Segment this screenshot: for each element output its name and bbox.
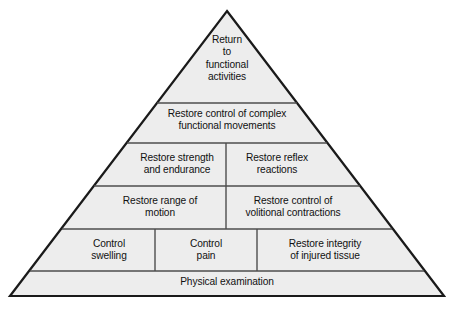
tier-3-cell-2-label: Restore reflex reactions — [229, 152, 325, 177]
tier-5-cell-3-label: Restore integrity of injured tissue — [260, 238, 390, 263]
tier-5-cell-1-label: Control swelling — [65, 238, 153, 263]
tier-4-cell-2-label: Restore control of volitional contractio… — [229, 195, 357, 220]
tier-3-cell-1-label: Restore strength and endurance — [129, 152, 225, 177]
tier-1-cell-1-label: Return to functional activities — [177, 34, 277, 84]
tier-5-cell-2-label: Control pain — [158, 238, 254, 263]
rehabilitation-pyramid-diagram: Return to functional activities Restore … — [0, 0, 454, 309]
tier-6-cell-1-label: Physical examination — [34, 276, 420, 288]
tier-4-cell-1-label: Restore range of motion — [97, 195, 223, 220]
tier-2-cell-1-label: Restore control of complex functional mo… — [131, 108, 323, 133]
